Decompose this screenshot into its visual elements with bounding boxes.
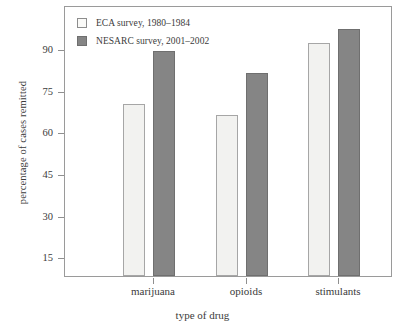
bar-chart-figure: percentage of cases remitted 90 75 60 45… bbox=[0, 0, 405, 333]
x-axis-title: type of drug bbox=[0, 309, 405, 321]
x-axis-ticks: marijuana opioids stimulants bbox=[0, 0, 405, 333]
x-tick-mark bbox=[246, 278, 247, 284]
x-tick-label-stimulants: stimulants bbox=[278, 285, 398, 297]
x-tick-mark bbox=[338, 278, 339, 284]
x-tick-mark bbox=[153, 278, 154, 284]
